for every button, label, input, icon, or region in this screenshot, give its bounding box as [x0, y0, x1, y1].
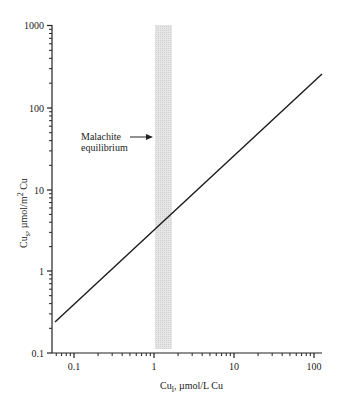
y-tick-label: 1000 [24, 20, 44, 31]
annotation-malachite: Malachite [81, 131, 122, 142]
y-tick-label: 1 [39, 266, 44, 277]
x-axis-label: Cul, µmol/L Cu [160, 380, 223, 394]
x-tick-label: 0.1 [68, 361, 81, 372]
annotation-arrow-icon [130, 134, 153, 140]
isotherm-line [55, 74, 322, 322]
y-axis-label: Cus, µmol/m2 Cu [16, 178, 32, 248]
y-tick-label: 100 [29, 103, 44, 114]
y-tick-label: 0.1 [32, 348, 45, 359]
malachite-equilibrium-band [155, 25, 172, 349]
chart: 1000 100 10 1 0.1 0.1 1 10 100 Cul, µmol… [0, 0, 340, 406]
x-tick-label: 10 [229, 361, 239, 372]
x-axis [52, 353, 322, 358]
x-tick-label: 1 [152, 361, 157, 372]
annotation-equilibrium: equilibrium [81, 142, 128, 153]
x-tick-label: 100 [307, 361, 322, 372]
y-tick-label: 10 [34, 185, 44, 196]
